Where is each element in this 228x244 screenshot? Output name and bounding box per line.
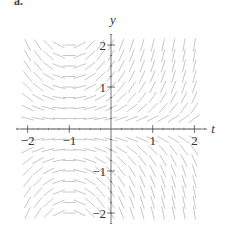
slope-segment xyxy=(96,177,105,186)
slope-segment xyxy=(25,39,31,50)
slope-segment xyxy=(127,104,137,111)
slope-segment xyxy=(130,207,134,219)
slope-segment xyxy=(141,207,144,219)
slope-segment xyxy=(162,39,165,51)
slope-segment xyxy=(95,94,106,100)
slope-segment xyxy=(140,186,144,198)
slope-segment xyxy=(171,165,176,177)
slope-segment xyxy=(170,103,178,113)
slope-segment xyxy=(96,61,104,70)
slope-segment xyxy=(183,39,185,51)
slope-segment xyxy=(140,50,144,62)
slope-segment xyxy=(117,156,126,165)
slope-segment xyxy=(159,103,167,112)
y-tick-label: −1 xyxy=(92,164,106,179)
t-tick-label: −1 xyxy=(62,133,76,148)
slope-segment xyxy=(34,51,41,61)
slope-segment xyxy=(129,176,135,187)
direction-field-plot: −2−112−2−112ty xyxy=(0,0,228,244)
axes xyxy=(16,34,207,224)
slope-segment xyxy=(24,187,31,197)
y-tick-label: 2 xyxy=(100,38,107,53)
slope-segment xyxy=(147,116,158,122)
slope-segment xyxy=(117,93,126,102)
slope-segment xyxy=(85,178,96,185)
slope-segment xyxy=(85,188,95,195)
slope-segment xyxy=(24,177,32,187)
slope-segment xyxy=(130,50,134,62)
slope-segment xyxy=(182,81,186,93)
slope-segment xyxy=(129,186,134,197)
slope-segment xyxy=(170,145,178,155)
slope-segment xyxy=(119,61,125,72)
slope-segment xyxy=(34,187,42,196)
slope-segment xyxy=(33,167,43,174)
t-tick-label: 1 xyxy=(149,133,156,148)
slope-segment xyxy=(119,197,124,208)
slope-segment xyxy=(150,176,155,188)
slope-segment xyxy=(149,92,156,102)
y-tick-label: −2 xyxy=(92,206,106,221)
slope-segment xyxy=(43,84,54,90)
slope-segment xyxy=(119,50,124,61)
slope-segment xyxy=(24,61,31,71)
y-tick-label: 1 xyxy=(100,80,107,95)
slope-segment xyxy=(180,145,187,155)
slope-segment xyxy=(126,116,138,120)
slope-segment xyxy=(160,155,166,166)
slope-segment xyxy=(159,145,167,154)
slope-segment xyxy=(118,82,126,92)
slope-segment xyxy=(158,136,169,142)
slope-segment xyxy=(171,92,177,103)
slope-segment xyxy=(116,105,126,112)
slope-segment xyxy=(35,208,42,218)
slope-segment xyxy=(140,60,144,72)
slope-segment xyxy=(158,115,169,121)
slope-segment xyxy=(44,188,54,195)
slope-segment xyxy=(127,146,137,153)
slope-segment xyxy=(25,197,31,208)
slope-segment xyxy=(129,60,134,71)
slope-segment xyxy=(137,116,148,121)
slope-segment xyxy=(182,165,186,177)
slope-segment xyxy=(140,71,145,82)
slope-segment xyxy=(118,71,125,81)
slope-segment xyxy=(140,197,144,209)
slope-segment xyxy=(160,92,166,103)
slope-segment xyxy=(85,73,96,80)
slope-segment xyxy=(148,104,157,113)
slope-segment xyxy=(44,51,53,59)
slope-segment xyxy=(171,81,176,93)
slope-segment xyxy=(33,94,44,100)
slope-segment xyxy=(139,82,145,93)
slope-segment xyxy=(86,51,95,59)
slope-segment xyxy=(181,92,186,103)
slope-segment xyxy=(25,50,31,61)
t-axis-label: t xyxy=(211,121,215,136)
slope-segment xyxy=(119,187,125,198)
slope-segment xyxy=(23,167,32,176)
slope-segment xyxy=(151,60,155,72)
slope-segment xyxy=(150,81,156,92)
slope-segment xyxy=(118,176,125,186)
slope-segment xyxy=(189,115,199,122)
slope-segment xyxy=(161,81,166,92)
slope-segment xyxy=(192,155,197,166)
slope-segment xyxy=(23,83,32,92)
slope-segment xyxy=(181,155,186,166)
slope-segment xyxy=(34,72,43,81)
slope-segment xyxy=(179,136,189,143)
slope-segment xyxy=(168,115,179,122)
slope-segment xyxy=(119,207,124,219)
slope-segment xyxy=(139,93,146,103)
slope-segment xyxy=(129,71,135,82)
slope-segment xyxy=(172,207,174,219)
slope-segment xyxy=(161,71,165,83)
slope-segment xyxy=(128,93,136,102)
slope-segment xyxy=(23,94,33,101)
slope-segment xyxy=(33,157,44,163)
slope-segment xyxy=(130,39,134,51)
slope-segment xyxy=(23,157,33,164)
slope-segment xyxy=(138,104,147,112)
slope-segment xyxy=(161,165,166,176)
